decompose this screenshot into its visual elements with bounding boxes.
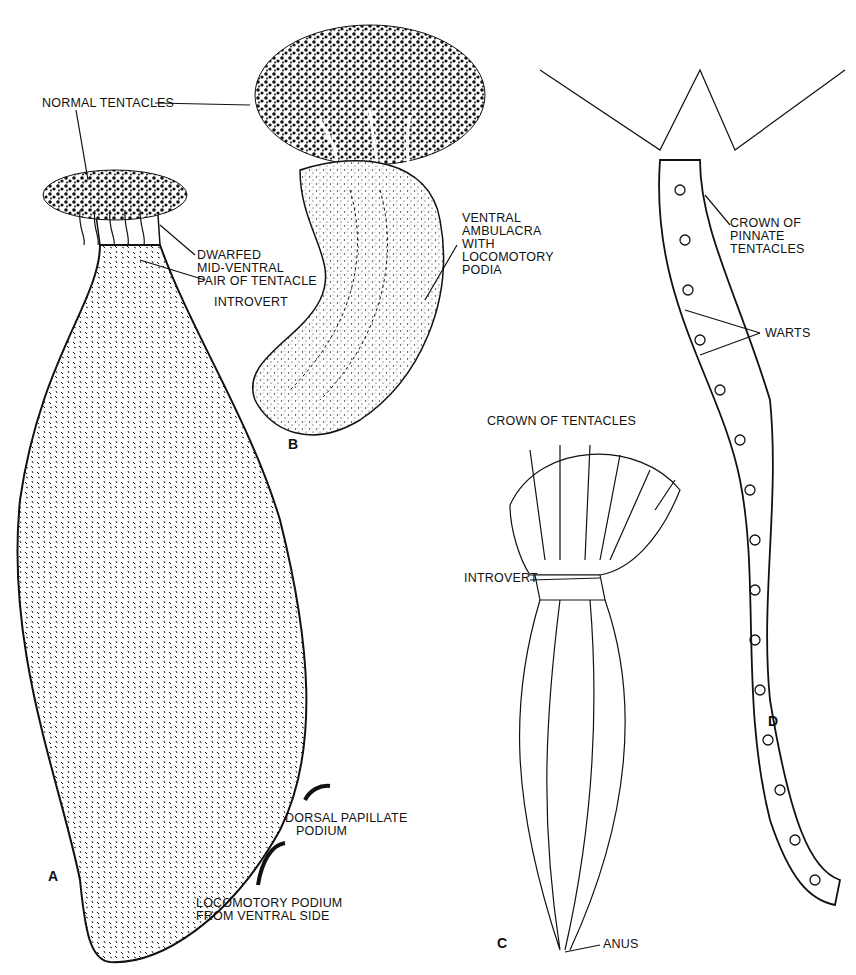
panel-letter-d: D xyxy=(768,713,778,729)
panel-letter-c: C xyxy=(497,935,507,951)
panel-letter-a: A xyxy=(48,868,58,884)
panel-c-body xyxy=(510,445,680,950)
panel-a-body xyxy=(17,170,306,962)
label-introvert-c: INTROVERT xyxy=(464,572,538,585)
label-dwarfed-tentacles: DWARFED MID-VENTRAL PAIR OF TENTACLE xyxy=(197,249,317,288)
panel-letter-b: B xyxy=(288,436,298,452)
label-ventral-ambulacra: VENTRAL AMBULACRA WITH LOCOMOTORY PODIA xyxy=(462,212,554,277)
label-introvert-a: INTROVERT xyxy=(214,296,288,309)
label-anus: ANUS xyxy=(603,938,639,951)
illustration xyxy=(0,0,856,975)
dorsal-papillate-podium-drawing xyxy=(305,786,330,800)
panel-d-body xyxy=(540,70,845,905)
label-normal-tentacles: NORMAL TENTACLES xyxy=(42,97,174,110)
label-locomotory-podium: LOCOMOTORY PODIUM FROM VENTRAL SIDE xyxy=(196,897,342,923)
label-warts: WARTS xyxy=(765,327,810,340)
label-crown-of-tentacles: CROWN OF TENTACLES xyxy=(487,415,636,428)
figure-canvas: NORMAL TENTACLES DWARFED MID-VENTRAL PAI… xyxy=(0,0,856,975)
label-crown-pinnate-tentacles: CROWN OF PINNATE TENTACLES xyxy=(730,217,805,256)
label-dorsal-papillate-podium: DORSAL PAPILLATE PODIUM xyxy=(285,812,407,838)
panel-b-body xyxy=(253,25,485,435)
